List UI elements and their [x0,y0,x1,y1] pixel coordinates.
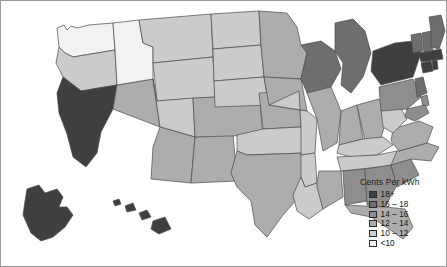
state-SD [213,45,264,81]
legend-item: 14 – 16 [369,210,444,219]
state-HI [113,199,171,234]
state-AR [301,153,317,187]
legend-swatch [369,211,377,218]
legend-label: <10 [381,239,395,248]
legend-item: 10 – 12 [369,229,444,238]
state-CT [421,61,433,73]
legend-swatch [369,240,377,247]
state-NM [191,133,237,183]
state-NV [113,79,160,127]
legend-item: 18+ [369,190,444,199]
legend-item: <10 [369,239,444,248]
legend-swatch [369,201,377,208]
state-AK [23,185,73,241]
legend-label: 18+ [381,190,395,199]
legend-swatch [369,220,377,227]
state-CA [57,77,117,167]
state-ME [429,15,445,49]
legend-swatch [369,230,377,237]
legend-item: 12 – 14 [369,219,444,228]
state-VT [411,33,423,53]
legend-swatch [369,191,377,198]
legend-item: 16 – 18 [369,200,444,209]
state-RI [432,60,438,70]
legend-label: 10 – 12 [381,229,409,238]
legend-label: 12 – 14 [381,219,409,228]
state-ND [211,11,261,49]
state-NJ [415,77,427,97]
state-AZ [151,127,195,183]
legend-label: 16 – 18 [381,200,409,209]
map-legend: Cents Per kWh 18+16 – 1814 – 1612 – 1410… [358,177,444,249]
legend-items-list: 18+16 – 1814 – 1612 – 1410 – 12<10 [358,190,444,248]
state-MN [259,11,307,79]
state-MI [335,19,371,93]
map-figure: Cents Per kWh 18+16 – 1814 – 1612 – 1410… [0,0,447,267]
legend-title: Cents Per kWh [360,177,444,187]
legend-label: 14 – 16 [381,210,409,219]
state-WY [153,57,215,101]
